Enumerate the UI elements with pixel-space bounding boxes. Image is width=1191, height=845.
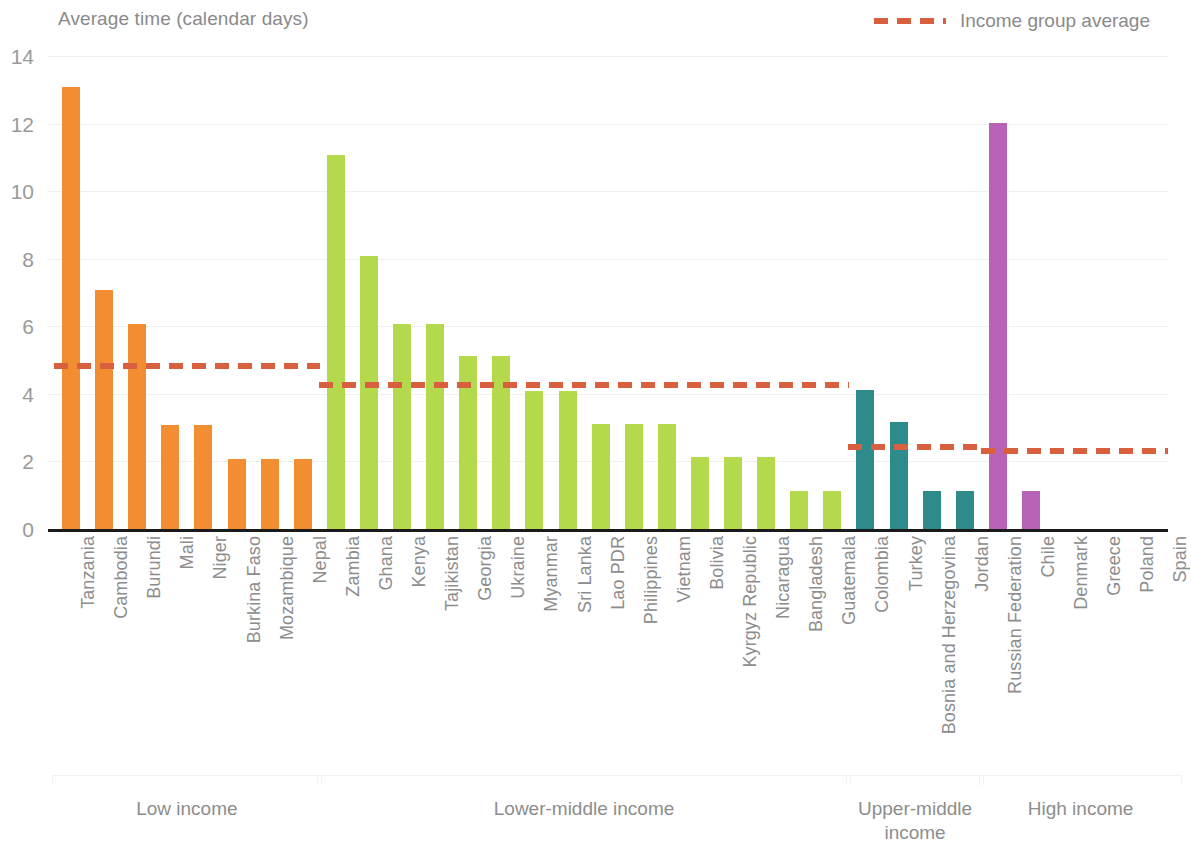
bar[interactable] [261,459,279,530]
x-axis-label: Zambia [343,536,364,597]
bar[interactable] [294,459,312,530]
bar[interactable] [724,457,742,530]
income-group-bracket [846,775,983,785]
y-axis-tick-label: 12 [11,113,34,137]
bar[interactable] [625,424,643,530]
x-axis-label: Burkina Faso [244,536,265,643]
bar[interactable] [790,491,808,530]
bar[interactable] [426,324,444,530]
x-axis-label: Guatemala [839,536,860,625]
bar[interactable] [1022,491,1040,530]
bar[interactable] [161,425,179,530]
income-group-bracket [317,775,852,785]
y-axis-tick-label: 14 [11,45,34,69]
y-axis-title: Average time (calendar days) [58,8,309,30]
bar[interactable] [62,87,80,530]
x-axis-label: Jordan [972,536,993,592]
dashed-line-icon [874,18,946,24]
income-group-bracket [979,775,1183,785]
x-axis-label: Burundi [144,536,165,599]
bar[interactable] [228,459,246,530]
income-group-average-line [848,444,981,450]
bar[interactable] [360,256,378,530]
x-axis-label: Nepal [310,536,331,584]
income-group-average-line [54,363,320,369]
bar[interactable] [194,425,212,530]
x-axis-label: Bolivia [707,536,728,590]
income-group-average-line [319,382,850,388]
x-axis-label: Tajikistan [442,536,463,611]
legend-label: Income group average [960,10,1150,32]
y-axis: 02468101214 [0,57,44,530]
bar[interactable] [327,155,345,530]
bar[interactable] [989,123,1007,530]
bar[interactable] [691,457,709,530]
x-axis-label: Sri Lanka [575,536,596,613]
income-group-bracket [52,775,322,785]
x-axis-label: Cambodia [111,536,132,619]
x-axis-label: Lao PDR [608,536,629,610]
bar[interactable] [823,491,841,530]
bar[interactable] [592,424,610,530]
x-axis-label: Tanzania [78,536,99,609]
income-group-label: Lower-middle income [317,797,852,821]
x-axis-label: Chile [1038,536,1059,578]
plot-area [48,57,1168,530]
x-axis-label: Mali [177,536,198,569]
x-axis-category-labels: TanzaniaCambodiaBurundiMaliNigerBurkina … [48,536,1168,776]
y-axis-tick-label: 0 [22,518,34,542]
income-group-label: High income [979,797,1183,821]
y-axis-tick-label: 2 [22,450,34,474]
x-axis-label: Philippines [641,536,662,624]
income-group-average-line [981,448,1168,454]
income-group-label: Upper-middle income [846,797,983,845]
x-axis-label: Turkey [906,536,927,591]
y-axis-tick-label: 8 [22,248,34,272]
x-axis-label: Vietnam [674,536,695,602]
x-axis-label: Russian Federation [1005,536,1026,694]
x-axis-label: Kyrgyz Republic [740,536,761,668]
x-axis-label: Myanmar [541,536,562,612]
x-axis-label: Niger [210,536,231,580]
bar[interactable] [393,324,411,530]
y-axis-tick-label: 6 [22,315,34,339]
legend: Income group average [874,10,1150,32]
x-axis-label: Nicaragua [773,536,794,619]
x-axis-label: Georgia [475,536,496,601]
x-axis-baseline [48,529,1168,532]
income-group-label: Low income [52,797,322,821]
x-axis-label: Kenya [409,536,430,588]
y-axis-tick-label: 4 [22,383,34,407]
x-axis-label: Greece [1104,536,1125,596]
x-axis-label: Poland [1137,536,1158,593]
bar[interactable] [128,324,146,530]
x-axis-label: Mozambique [277,536,298,640]
x-axis-label: Bangladesh [806,536,827,632]
bar[interactable] [95,290,113,530]
x-axis-label: Ukraine [508,536,529,599]
bar[interactable] [525,391,543,530]
x-axis-label: Colombia [872,536,893,613]
bar[interactable] [559,391,577,530]
x-axis-label: Denmark [1071,536,1092,610]
x-axis-label: Ghana [376,536,397,591]
x-axis-label: Bosnia and Herzegovina [939,536,960,734]
gridline [48,56,1168,57]
income-group-axis: Low incomeLower-middle incomeUpper-middl… [48,775,1168,845]
bar[interactable] [923,491,941,530]
bar[interactable] [658,424,676,530]
x-axis-label: Spain [1170,536,1191,583]
bar[interactable] [890,422,908,530]
bar[interactable] [856,390,874,530]
bar[interactable] [757,457,775,530]
y-axis-tick-label: 10 [11,180,34,204]
bar[interactable] [956,491,974,530]
